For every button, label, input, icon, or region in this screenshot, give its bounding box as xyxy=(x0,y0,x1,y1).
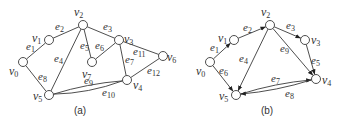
graph-b-edge-label-e6: e6 xyxy=(219,64,228,78)
graph-b-vertex-label-v4: v4 xyxy=(322,73,331,88)
graph-a-vertex-label-v5: v5 xyxy=(33,89,42,104)
graph-a: e1e2e3e4e5e6e7e8e9e10e11e12v0v1v2v3v4v5v… xyxy=(9,5,176,104)
graph-a-edge-label-e5: e5 xyxy=(80,39,89,53)
graph-b-edge-label-e2: e2 xyxy=(243,21,252,35)
caption-a: (a) xyxy=(74,105,86,116)
graph-b-vertex-v4 xyxy=(312,75,321,84)
graph-a-vertex-v4 xyxy=(123,76,132,85)
graph-b-edge-label-e8: e8 xyxy=(285,87,294,101)
graph-a-vertex-v0 xyxy=(19,58,28,67)
caption-b: (b) xyxy=(261,105,273,116)
graph-b: e1e2e3e4e5e6e7e8e9v0v1v2v3v4v5 xyxy=(196,5,331,104)
graph-a-vertex-label-v0: v0 xyxy=(9,64,18,79)
graph-b-edge-label-e9: e9 xyxy=(280,42,289,56)
graph-a-edge-label-e2: e2 xyxy=(55,20,64,34)
graph-b-edge-label-e3: e3 xyxy=(286,19,295,33)
graph-b-vertex-v1 xyxy=(230,36,239,45)
graph-b-edge-label-e5: e5 xyxy=(311,54,320,68)
graph-a-edge-label-e10: e10 xyxy=(102,86,115,100)
graph-b-edge-label-e4: e4 xyxy=(239,52,248,66)
graph-b-vertex-v5 xyxy=(232,91,241,100)
graph-a-vertex-label-v7: v7 xyxy=(82,67,91,82)
graph-b-edge-label-e7: e7 xyxy=(271,72,280,86)
graph-b-vertex-label-v0: v0 xyxy=(196,64,205,79)
graph-b-vertex-label-v3: v3 xyxy=(311,33,320,48)
graph-b-vertex-v0 xyxy=(206,58,215,67)
graph-a-vertex-label-v2: v2 xyxy=(74,5,83,20)
graph-b-vertex-label-v5: v5 xyxy=(219,89,228,104)
graph-a-edge-label-e3: e3 xyxy=(103,20,112,34)
graph-a-edge-label-e4: e4 xyxy=(54,52,63,66)
graph-a-edge-label-e8: e8 xyxy=(38,70,47,84)
graph-a-vertex-v5 xyxy=(45,91,54,100)
graph-b-vertex-label-v2: v2 xyxy=(261,5,270,20)
graph-a-vertex-label-v3: v3 xyxy=(124,32,133,47)
graph-a-vertex-label-v4: v4 xyxy=(133,78,142,93)
graph-a-vertex-label-v1: v1 xyxy=(32,31,41,46)
graph-a-vertex-v7 xyxy=(88,58,97,67)
graph-a-vertex-v1 xyxy=(45,36,54,45)
graph-a-vertex-label-v6: v6 xyxy=(167,50,176,65)
graph-a-vertex-v2 xyxy=(79,21,88,30)
graph-b-vertex-v3 xyxy=(301,36,310,45)
graph-a-vertex-v3 xyxy=(115,36,124,45)
graph-figure: e1e2e3e4e5e6e7e8e9e10e11e12v0v1v2v3v4v5v… xyxy=(0,0,337,124)
graph-b-vertex-v2 xyxy=(266,21,275,30)
graph-a-edge-label-e12: e12 xyxy=(147,64,160,78)
graph-b-vertex-label-v1: v1 xyxy=(218,31,227,46)
graph-a-edge-label-e6: e6 xyxy=(95,39,104,53)
